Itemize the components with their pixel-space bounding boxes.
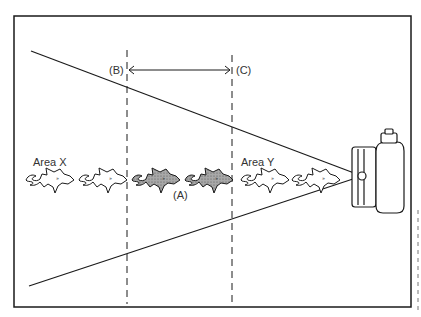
fish-2: [79, 168, 127, 193]
fish-4-shaded: [185, 168, 233, 193]
fish-5: [241, 168, 289, 193]
fov-lower-line: [29, 176, 362, 286]
label-a: (A): [173, 190, 188, 201]
label-area-x: Area X: [33, 157, 67, 168]
fish-6: [292, 168, 340, 193]
label-area-y: Area Y: [241, 157, 274, 168]
label-c: (C): [236, 65, 251, 76]
label-b: (B): [109, 65, 124, 76]
camera-icon: [352, 129, 404, 213]
fish-1: [26, 168, 74, 193]
b-to-c-double-arrow: [129, 66, 230, 74]
